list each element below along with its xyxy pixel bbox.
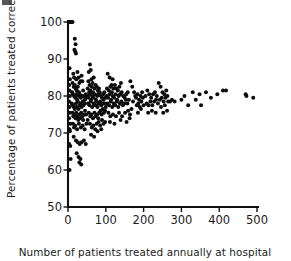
data-point [132, 90, 136, 94]
data-point [83, 109, 87, 113]
data-point [103, 109, 107, 113]
data-point [147, 103, 151, 107]
data-point [73, 37, 77, 41]
scan-artifact [2, 0, 12, 5]
data-point [160, 96, 164, 100]
data-point [68, 105, 72, 109]
y-axis-title: Percentage of patients treated correctly [5, 0, 17, 198]
data-point [156, 101, 160, 105]
data-point [75, 70, 79, 74]
data-point [80, 79, 84, 83]
data-point [74, 42, 78, 46]
y-tick-label: 50 [47, 200, 62, 214]
data-point [164, 88, 168, 92]
data-point [161, 111, 165, 115]
data-point [155, 94, 159, 98]
data-point [76, 85, 80, 89]
data-point [128, 79, 132, 83]
data-point [136, 111, 140, 115]
x-tick-label: 100 [95, 213, 117, 227]
data-point [102, 90, 106, 94]
data-point [146, 111, 150, 115]
data-point [148, 100, 152, 104]
data-point [198, 92, 202, 96]
data-point [128, 113, 132, 117]
data-point [215, 92, 219, 96]
data-point [68, 144, 72, 148]
data-point [165, 109, 169, 113]
data-point [150, 103, 154, 107]
data-point [162, 100, 166, 104]
data-point [120, 90, 124, 94]
data-point [131, 100, 135, 104]
data-point [86, 118, 90, 122]
data-point [83, 127, 87, 131]
data-point [130, 85, 134, 89]
data-point [127, 98, 131, 102]
data-point [95, 105, 99, 109]
data-point [71, 72, 75, 76]
data-point [72, 135, 76, 139]
data-point [82, 138, 86, 142]
x-axis-tick-labels: 0100200300400500 [64, 213, 268, 227]
x-tick-label: 0 [64, 213, 71, 227]
data-point [68, 129, 72, 133]
data-point [81, 118, 85, 122]
data-point [126, 90, 130, 94]
data-point [79, 162, 83, 166]
data-point [88, 63, 92, 67]
data-point [106, 111, 110, 115]
x-tick-label: 400 [208, 213, 230, 227]
data-point [191, 90, 195, 94]
data-point [97, 120, 101, 124]
data-point [112, 122, 116, 126]
data-point [104, 105, 108, 109]
y-tick-label: 70 [47, 126, 62, 140]
data-point [139, 107, 143, 111]
data-point [173, 100, 177, 104]
data-point [84, 142, 88, 146]
data-point [119, 118, 123, 122]
x-axis-title: Number of patients treated annually at h… [19, 246, 272, 258]
data-point [159, 105, 163, 109]
data-point [194, 98, 198, 102]
data-point [88, 122, 92, 126]
data-point [117, 111, 121, 115]
scatter-plot-canvas: 5060708090100 0100200300400500 Percentag… [0, 0, 291, 261]
y-axis-tick-labels: 5060708090100 [40, 15, 62, 214]
data-point [139, 100, 143, 104]
data-point [95, 129, 99, 133]
data-point [224, 88, 228, 92]
data-point [209, 96, 213, 100]
data-point [251, 96, 255, 100]
data-point [159, 85, 163, 89]
data-point [89, 68, 93, 72]
data-point [106, 72, 110, 76]
data-point [73, 124, 77, 128]
data-point [77, 122, 81, 126]
data-point [97, 87, 101, 91]
data-point [244, 94, 248, 98]
data-point [98, 90, 102, 94]
data-point [103, 120, 107, 124]
y-tick-label: 100 [40, 15, 62, 29]
data-point [68, 168, 72, 172]
data-point [67, 83, 71, 87]
data-point [68, 77, 72, 81]
y-tick-label: 90 [47, 52, 62, 66]
data-point [126, 109, 130, 113]
data-points [67, 20, 255, 172]
data-point [143, 94, 147, 98]
data-point [157, 81, 161, 85]
data-point [130, 107, 134, 111]
data-point [163, 103, 167, 107]
data-point [92, 135, 96, 139]
data-point [69, 157, 73, 161]
x-tick-label: 200 [133, 213, 155, 227]
data-point [68, 66, 72, 70]
data-point [199, 103, 203, 107]
data-point [96, 116, 100, 120]
data-point [81, 124, 85, 128]
data-point [179, 98, 183, 102]
data-point [75, 151, 79, 155]
